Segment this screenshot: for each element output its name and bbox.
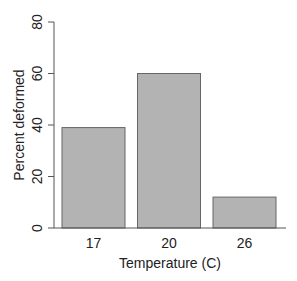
y-axis-title: Percent deformed (11, 69, 27, 180)
y-tick-label: 80 (29, 14, 45, 30)
bar-26 (213, 197, 276, 228)
x-tick-label: 20 (161, 235, 177, 251)
y-tick-label: 0 (29, 224, 45, 232)
y-axis: 020406080 (29, 14, 54, 232)
x-axis-title: Temperature (C) (119, 255, 221, 271)
x-axis: 172026 (54, 228, 286, 251)
x-tick-label: 26 (237, 235, 253, 251)
x-tick-label: 17 (86, 235, 102, 251)
bars (62, 74, 276, 229)
y-tick-label: 40 (29, 117, 45, 133)
y-tick-label: 60 (29, 66, 45, 82)
bar-17 (62, 128, 125, 228)
bar-20 (138, 74, 201, 229)
y-tick-label: 20 (29, 169, 45, 185)
bar-chart: 020406080 172026 Temperature (C) Percent… (0, 0, 297, 281)
